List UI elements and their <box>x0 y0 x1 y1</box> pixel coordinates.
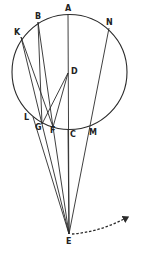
point-label-e: E <box>66 237 71 246</box>
point-label-g: G <box>35 123 42 132</box>
optics-diagram: ABKNDLGFCME <box>0 0 142 259</box>
segment-fe <box>53 127 69 234</box>
segment-ge <box>42 124 69 234</box>
point-label-n: N <box>106 18 113 27</box>
dashed-arrow <box>72 217 128 234</box>
point-label-a: A <box>65 4 72 13</box>
point-label-k: K <box>14 28 21 37</box>
segment-df <box>53 73 68 127</box>
point-label-d: D <box>71 67 78 76</box>
point-label-c: C <box>70 130 76 139</box>
point-label-b: B <box>35 12 41 21</box>
segment-dg <box>42 73 68 124</box>
point-label-f: F <box>50 126 55 135</box>
point-label-l: L <box>24 113 29 122</box>
point-label-m: M <box>89 128 97 137</box>
dashed-arrow-path <box>72 217 128 234</box>
